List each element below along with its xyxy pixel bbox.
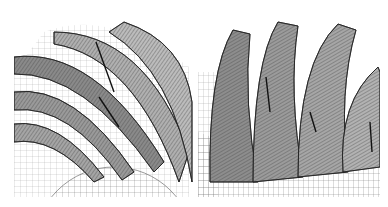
left-gear-mesh-panel bbox=[14, 12, 194, 197]
bevel-gear-mesh-image bbox=[14, 12, 194, 197]
right-gear-mesh-panel bbox=[198, 12, 380, 197]
gear-teeth-mesh-image bbox=[198, 12, 380, 197]
